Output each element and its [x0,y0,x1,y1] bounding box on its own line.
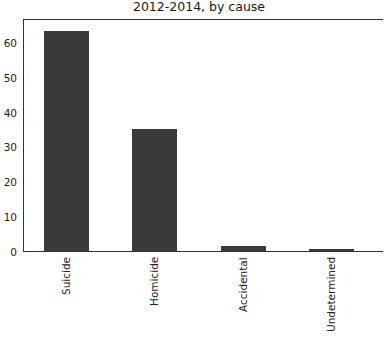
y-tick-label: 60 [0,37,17,49]
bar-suicide [44,31,89,251]
chart-title: 2012-2014, by cause [0,0,387,15]
x-tick-label: Homicide [148,257,160,306]
y-tick-label: 40 [0,107,17,119]
y-tick-label: 20 [0,176,17,188]
x-tick-label: Undetermined [325,257,337,332]
bar-homicide [132,129,177,251]
y-tick-label: 50 [0,72,17,84]
y-tick-label: 30 [0,141,17,153]
bar-undetermined [309,249,354,252]
y-tick-label: 10 [0,211,17,223]
bar-accidental [221,246,266,252]
y-tick-label: 0 [0,246,17,258]
x-tick-label: Accidental [237,257,249,312]
x-tick-label: Suicide [60,257,72,295]
